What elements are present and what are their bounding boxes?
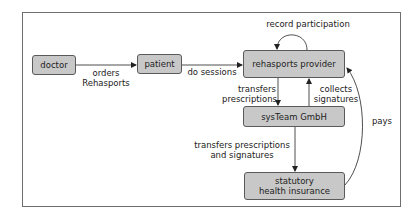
label-transfers-prescriptions-and-signatures: transfers prescriptions and signatures [190,140,294,160]
label-transfers-prescriptions: transfers prescriptions [222,84,276,104]
node-doctor: doctor [32,55,76,75]
node-patient: patient [137,54,182,74]
edge-record-participation-loop [277,35,307,50]
node-statutory-health-insurance: statutory health insurance [244,172,345,200]
label-collects-signatures: collects signatures [311,84,361,104]
label-orders-rehasports: orders Rehasports [78,68,134,88]
node-rehasports-provider: rehasports provider [243,50,345,78]
label-pays: pays [370,116,394,126]
label-do-sessions: do sessions [184,67,240,77]
node-systeam-gmbh: sysTeam GmbH [243,106,345,127]
edges-layer [0,0,420,217]
label-record-participation: record participation [248,19,368,29]
